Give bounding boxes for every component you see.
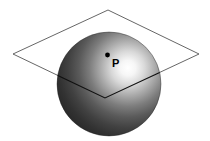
figure-container: P <box>0 0 210 141</box>
sphere-body <box>57 32 161 136</box>
sphere-plane-diagram: P <box>0 0 210 141</box>
point-p-label: P <box>112 57 119 69</box>
point-p-dot <box>105 53 110 58</box>
